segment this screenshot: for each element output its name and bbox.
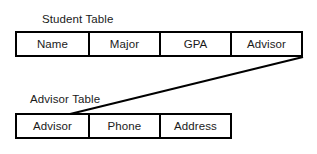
advisor-table-caption: Advisor Table <box>30 93 100 105</box>
advisor-column-phone: Phone <box>88 115 159 137</box>
student-column-name: Name <box>17 33 88 55</box>
advisor-column-advisor: Advisor <box>17 115 88 137</box>
student-table-caption: Student Table <box>42 13 113 25</box>
student-column-advisor: Advisor <box>230 33 301 55</box>
advisor-table: Advisor Phone Address <box>15 113 232 139</box>
er-diagram: Student Table Name Major GPA Advisor Adv… <box>0 0 317 154</box>
foreign-key-connector-line <box>70 57 303 114</box>
student-column-major: Major <box>88 33 159 55</box>
student-column-gpa: GPA <box>159 33 230 55</box>
advisor-column-address: Address <box>159 115 230 137</box>
student-table: Name Major GPA Advisor <box>15 31 303 57</box>
